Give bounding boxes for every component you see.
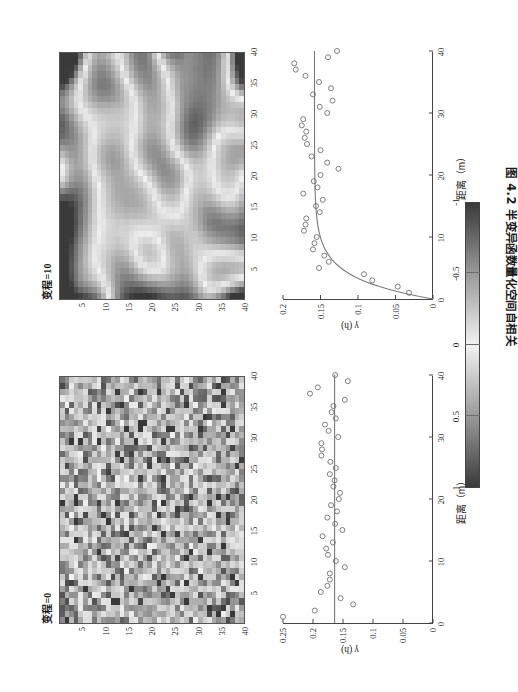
heatmap-xaxis-range-0: 510152025303540 [247, 376, 261, 624]
heatmap-ytick: 25 [170, 303, 180, 312]
variogram-point [314, 235, 319, 240]
variogram-ytick-label: 0.2 [308, 628, 318, 639]
variogram-wrap-range-10: 00.050.10.150.2 010203040 γ (h) [283, 52, 433, 300]
variogram-xtick-label: 0 [436, 622, 446, 626]
colorbar-tick-label: 1 [451, 486, 461, 491]
variogram-point [317, 266, 322, 271]
variogram-model-line [315, 51, 434, 299]
heatmap-yaxis-range-10: 510152025303540 [59, 302, 245, 322]
heatmap-xtick: 10 [249, 558, 259, 567]
variogram-point [317, 104, 322, 109]
variogram-xtick-label: 20 [436, 172, 446, 181]
variogram-point [329, 410, 334, 415]
variogram-point [324, 546, 329, 551]
heatmap-ytick: 25 [170, 627, 180, 636]
variogram-point [315, 385, 320, 390]
variogram-point [335, 49, 340, 54]
variogram-point [325, 160, 330, 165]
variogram-xtick-label: 30 [436, 110, 446, 119]
figure-page: 变程=0 510152025303540 510152025303540 00.… [0, 0, 518, 692]
variogram-xtick-label: 10 [436, 558, 446, 567]
variogram-plot-range-0 [283, 376, 433, 624]
variogram-point [304, 129, 309, 134]
heatmap-ytick: 5 [77, 303, 87, 307]
variogram-point [317, 210, 322, 215]
heatmap-xtick: 15 [249, 527, 259, 536]
variogram-point [323, 422, 328, 427]
heatmap-wrap-range-0: 510152025303540 510152025303540 [59, 376, 245, 624]
variogram-wrap-range-0: 00.050.10.150.20.25 010203040 γ (h) [283, 376, 433, 624]
heatmap-ytick: 30 [194, 627, 204, 636]
heatmap-xtick: 30 [249, 434, 259, 443]
variogram-point [303, 73, 308, 78]
variogram-point [336, 497, 341, 502]
variogram-point [318, 590, 323, 595]
colorbar-tick-mark [465, 416, 480, 417]
heatmap-ytick: 10 [101, 627, 111, 636]
variogram-point [301, 117, 306, 122]
variogram-point [333, 466, 338, 471]
variogram-point [305, 142, 310, 147]
colorbar-tick-label: -0.5 [451, 266, 461, 280]
heatmap-wrap-range-10: 510152025303540 510152025303540 [59, 52, 245, 300]
variogram-point [345, 379, 350, 384]
variogram-point [318, 148, 323, 153]
variogram-ytick-label: 0.15 [338, 628, 348, 643]
variogram-xtick-label: 30 [436, 434, 446, 443]
variogram-point [333, 416, 338, 421]
colorbar-tick-label: 0.5 [451, 411, 461, 422]
variogram-ytick-label: 0.2 [278, 304, 288, 315]
variogram-point [325, 111, 330, 116]
heatmap-ytick: 15 [124, 303, 134, 312]
variogram-point [328, 459, 333, 464]
variogram-point [342, 565, 347, 570]
variogram-point [320, 197, 325, 202]
variogram-point [395, 284, 400, 289]
variogram-point [315, 185, 320, 190]
variogram-point [312, 241, 317, 246]
variogram-point [333, 521, 338, 526]
heatmap-ytick: 40 [240, 303, 250, 312]
variogram-point [309, 154, 314, 159]
variogram-point [329, 503, 334, 508]
colorbar-tick-mark [465, 344, 480, 345]
variogram-ytick-label: 0.05 [391, 304, 401, 319]
colorbar-ticks: 10.50-0.5-1 [451, 202, 464, 488]
variogram-xtick-label: 10 [436, 234, 446, 243]
colorbar-tick-label: -1 [451, 198, 461, 206]
panel-range-0: 变程=0 510152025303540 510152025303540 00.… [33, 358, 485, 658]
heatmap-ytick: 20 [147, 627, 157, 636]
variogram-point [327, 472, 332, 477]
variogram-point [327, 571, 332, 576]
heatmap-xtick: 20 [249, 172, 259, 181]
variogram-point [292, 61, 297, 66]
variogram-point [281, 614, 286, 619]
variogram-ytick-label: 0.15 [316, 304, 326, 319]
variogram-ytick-label: 0.1 [368, 628, 378, 639]
variogram-ytick-label: 0.05 [398, 628, 408, 643]
variogram-point [335, 509, 340, 514]
variogram-ylabel-range-10: γ (h) [290, 321, 410, 331]
variogram-point [362, 272, 367, 277]
heatmap-ytick: 30 [194, 303, 204, 312]
heatmap-xtick: 30 [249, 110, 259, 119]
variogram-point [320, 447, 325, 452]
variogram-point [342, 397, 347, 402]
variogram-point [304, 216, 309, 221]
heatmap-xtick: 40 [249, 372, 259, 381]
variogram-point [370, 278, 375, 283]
heatmap-ytick: 5 [77, 627, 87, 631]
variogram-point [319, 441, 324, 446]
variogram-point [312, 608, 317, 613]
variogram-point [326, 552, 331, 557]
variogram-point [330, 98, 335, 103]
heatmap-range-0 [59, 376, 245, 624]
heatmap-xtick: 10 [249, 234, 259, 243]
variogram-point [322, 253, 327, 258]
heatmap-xtick: 25 [249, 465, 259, 474]
panel-title-range-10: 变程=10 [39, 263, 54, 300]
colorbar: 10.50-0.5-1 [451, 202, 481, 488]
variogram-point [317, 80, 322, 85]
variogram-point [338, 490, 343, 495]
variogram-point [325, 515, 330, 520]
